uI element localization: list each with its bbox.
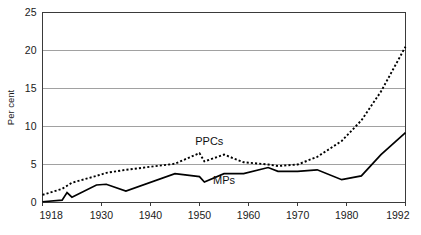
chart-canvas: 0510152025 19181930194019501960197019801… [0, 0, 421, 235]
y-tick-labels-group: 0510152025 [25, 6, 37, 208]
series-line-ppcs [43, 47, 406, 195]
x-tick-label-1980: 1980 [335, 209, 359, 221]
x-tick-label-1960: 1960 [237, 209, 261, 221]
x-tick-labels-group: 19181930194019501960197019801992 [40, 209, 410, 221]
x-tick-label-1918: 1918 [40, 209, 64, 221]
y-tick-label-20: 20 [25, 44, 37, 56]
series-line-mps [43, 133, 406, 202]
x-tick-label-1940: 1940 [139, 209, 163, 221]
y-tick-label-5: 5 [31, 158, 37, 170]
y-tick-label-15: 15 [25, 82, 37, 94]
series-annotation-mps: MPs [213, 174, 236, 186]
y-tick-label-0: 0 [31, 196, 37, 208]
x-tick-label-1992: 1992 [386, 209, 410, 221]
percent-line-chart: 0510152025 19181930194019501960197019801… [0, 0, 421, 235]
y-tick-label-10: 10 [25, 120, 37, 132]
x-tick-label-1950: 1950 [188, 209, 212, 221]
y-axis-title-group: Per cent [5, 89, 16, 125]
x-tick-label-1970: 1970 [286, 209, 310, 221]
series-annotation-ppcs: PPCs [195, 135, 224, 147]
y-axis-title: Per cent [5, 89, 16, 125]
y-tick-label-25: 25 [25, 6, 37, 18]
x-tick-label-1930: 1930 [90, 209, 114, 221]
